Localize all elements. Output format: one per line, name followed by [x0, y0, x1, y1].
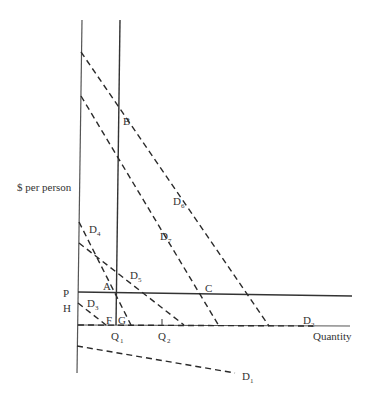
point-label-g: G: [118, 314, 126, 326]
price-label-h: H: [63, 302, 71, 314]
svg-text:1: 1: [120, 337, 124, 345]
svg-text:D: D: [173, 195, 181, 207]
curve-d5: [79, 243, 184, 325]
svg-text:2: 2: [311, 321, 315, 329]
svg-text:4: 4: [97, 230, 101, 238]
x-axis-label: Quantity: [313, 330, 352, 342]
svg-text:Q: Q: [158, 330, 166, 342]
curve-d1: [77, 346, 235, 373]
curve-label-d6: D 6: [173, 195, 185, 210]
point-label-b: B: [123, 115, 130, 127]
point-label-f: F: [106, 314, 112, 326]
point-label-c: C: [205, 282, 212, 294]
demand-curves-diagram: $ per person Quantity B A C F G P H Q 1 …: [0, 0, 372, 400]
svg-text:6: 6: [181, 202, 185, 210]
y-axis-label: $ per person: [17, 181, 72, 193]
svg-text:Q: Q: [111, 330, 119, 342]
curve-label-d2: D 2: [303, 314, 315, 329]
curve-label-d1: D 1: [242, 370, 254, 385]
svg-text:D: D: [87, 297, 95, 309]
quantity-label-q2: Q 2: [158, 330, 171, 345]
svg-text:D: D: [160, 230, 168, 242]
svg-text:D: D: [89, 223, 97, 235]
y-axis: [77, 20, 82, 373]
curve-label-d4: D 4: [89, 223, 101, 238]
curve-label-d7: D 7: [160, 230, 172, 245]
price-line-p: [78, 292, 352, 296]
svg-text:D: D: [242, 370, 250, 382]
curve-label-d5: D 5: [130, 269, 142, 284]
point-label-a: A: [103, 280, 111, 292]
svg-text:1: 1: [250, 377, 254, 385]
svg-text:7: 7: [168, 237, 172, 245]
q1-vertical-line: [116, 20, 120, 325]
price-label-p: P: [63, 287, 69, 299]
svg-text:D: D: [303, 314, 311, 326]
quantity-label-q1: Q 1: [111, 330, 124, 345]
curve-label-d3: D 3: [87, 297, 99, 312]
svg-text:2: 2: [167, 337, 171, 345]
curve-d7: [81, 96, 219, 326]
svg-text:5: 5: [138, 276, 142, 284]
svg-text:3: 3: [95, 304, 99, 312]
svg-text:D: D: [130, 269, 138, 281]
